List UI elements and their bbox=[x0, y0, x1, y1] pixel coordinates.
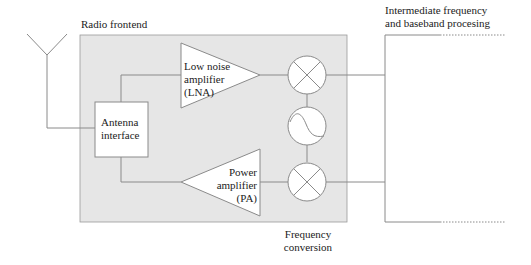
pa-label-line2: amplifier bbox=[205, 179, 257, 192]
mixer-rx-icon bbox=[288, 56, 326, 94]
block-diagram bbox=[0, 0, 531, 265]
pa-label-line1: Power bbox=[205, 166, 257, 179]
lna-label-line1: Low noise bbox=[184, 60, 230, 73]
mixer-tx-icon bbox=[288, 163, 326, 201]
oscillator-icon bbox=[288, 107, 326, 145]
if-baseband-label-line2: and baseband procesing bbox=[385, 17, 490, 30]
radio-frontend-label: Radio frontend bbox=[81, 18, 147, 31]
if-baseband-bracket bbox=[385, 35, 505, 222]
if-baseband-label-line1: Intermediate frequency bbox=[385, 4, 487, 17]
frequency-conversion-label-line1: Frequency bbox=[278, 228, 338, 241]
antenna-interface-label-line2: interface bbox=[101, 129, 139, 142]
pa-label-line3: (PA) bbox=[205, 192, 257, 205]
antenna-interface-label-line1: Antenna bbox=[101, 116, 138, 129]
frequency-conversion-label-line2: conversion bbox=[278, 241, 338, 254]
lna-label-line3: (LNA) bbox=[184, 86, 214, 99]
lna-label-line2: amplifier bbox=[184, 73, 224, 86]
